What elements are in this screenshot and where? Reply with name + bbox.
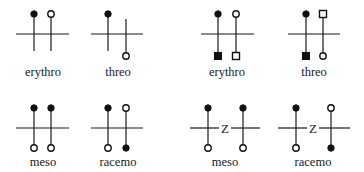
figure-erythro: erythro: [16, 11, 69, 79]
figure-caption: threo: [301, 65, 327, 79]
stereochemistry-diagram: erythrothreoerythrothreomesoracemoZmesoZ…: [0, 0, 364, 172]
open-circle-icon: [233, 11, 239, 17]
open-circle-icon: [123, 105, 129, 111]
figure-caption: meso: [30, 155, 56, 169]
filled-circle-icon: [303, 11, 309, 17]
filled-circle-icon: [293, 105, 299, 111]
filled-circle-icon: [240, 105, 246, 111]
open-circle-icon: [320, 53, 326, 59]
open-circle-icon: [123, 53, 129, 59]
filled-circle-icon: [31, 11, 37, 17]
filled-circle-icon: [31, 105, 37, 111]
open-circle-icon: [48, 11, 54, 17]
filled-circle-icon: [105, 11, 111, 17]
z-label: Z: [221, 121, 229, 136]
filled-circle-icon: [48, 105, 54, 111]
open-circle-icon: [205, 145, 211, 151]
figure-threo: threo: [288, 11, 340, 80]
open-circle-icon: [293, 145, 299, 151]
filled-circle-icon: [205, 105, 211, 111]
filled-square-icon: [215, 53, 222, 60]
z-label: Z: [309, 121, 317, 136]
figure-racemo-z: Zracemo: [278, 105, 350, 169]
open-square-icon: [233, 53, 240, 60]
filled-circle-icon: [123, 145, 129, 151]
open-circle-icon: [240, 145, 246, 151]
figure-caption: erythro: [25, 65, 61, 79]
figure-caption: racemo: [100, 155, 137, 169]
figure-meso: meso: [16, 105, 69, 169]
figure-threo: threo: [91, 11, 143, 79]
open-circle-icon: [105, 145, 111, 151]
open-circle-icon: [48, 145, 54, 151]
figure-caption: meso: [212, 155, 238, 169]
filled-circle-icon: [215, 11, 221, 17]
figure-meso-z: Zmeso: [190, 105, 260, 169]
figure-caption: threo: [105, 65, 131, 79]
figure-erythro: erythro: [201, 11, 254, 79]
filled-square-icon: [303, 53, 310, 60]
figure-racemo: racemo: [91, 105, 143, 169]
figure-caption: racemo: [295, 155, 332, 169]
open-circle-icon: [31, 145, 37, 151]
figure-caption: erythro: [209, 65, 245, 79]
filled-circle-icon: [328, 145, 334, 151]
open-square-icon: [320, 11, 327, 18]
open-circle-icon: [328, 105, 334, 111]
filled-circle-icon: [105, 105, 111, 111]
